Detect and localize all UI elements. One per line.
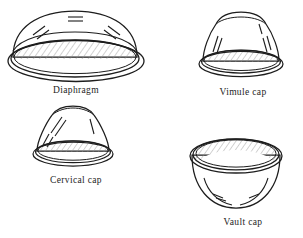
illustration-page: Diaphragm — [0, 0, 303, 238]
figure-diaphragm — [4, 4, 152, 84]
figure-cervical-cap — [26, 101, 120, 171]
caption-vimule-cap: Vimule cap — [196, 88, 290, 98]
figure-vault-cap — [180, 132, 292, 216]
caption-cervical-cap: Cervical cap — [0, 176, 152, 186]
caption-vault-cap: Vault cap — [196, 218, 290, 228]
caption-diaphragm: Diaphragm — [0, 86, 152, 96]
figure-vimule-cap — [194, 8, 290, 80]
